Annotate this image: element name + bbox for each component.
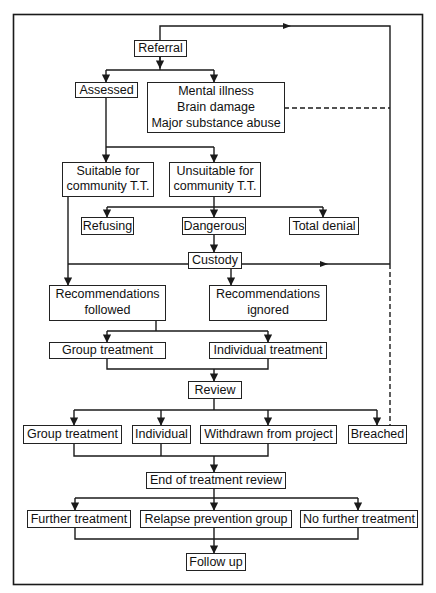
node-label: Total denial [292,219,355,233]
node-label: Follow up [189,555,243,569]
node-recommendations-followed: Recommendations followed [50,286,166,321]
node-relapse-prevention-group: Relapse prevention group [141,511,292,528]
node-suitable: Suitable for community T.T. [63,163,154,197]
node-unsuitable: Unsuitable for community T.T. [170,163,261,197]
node-label: community T.T. [66,179,149,193]
node-follow-up: Follow up [187,554,246,571]
node-no-further-treatment: No further treatment [301,511,418,528]
node-label: Relapse prevention group [144,512,287,526]
node-group-treatment-2: Group treatment [24,426,122,444]
edge-treatments-merge [107,358,268,369]
edge-final-merge [75,527,358,539]
node-label: Referral [138,41,182,55]
node-assessed: Assessed [76,83,138,98]
node-review: Review [189,382,242,399]
node-custody: Custody [189,253,242,269]
node-label: Refusing [83,219,132,233]
node-label: Major substance abuse [151,116,280,130]
node-label: Recommendations [55,287,159,301]
node-label: Custody [192,253,239,267]
node-referral: Referral [135,41,187,57]
node-label: Individual treatment [213,343,323,357]
loop-arrow-icon [283,23,291,29]
node-label: Mental illness [178,84,254,98]
node-label: Review [195,383,237,397]
node-label: End of treatment review [150,473,283,487]
node-label: Brain damage [177,100,255,114]
node-label: followed [85,303,131,317]
nodes: Referral Assessed Mental illness Brain d… [24,41,418,571]
node-label: Group treatment [62,343,154,357]
node-individual: Individual [133,426,191,444]
node-refusing: Refusing [82,218,134,235]
edge-merge-bar [74,444,268,456]
node-label: Recommendations [216,287,320,301]
node-further-treatment: Further treatment [28,511,131,528]
node-breached: Breached [349,426,407,444]
node-label: No further treatment [303,512,415,526]
flowchart-canvas: Referral Assessed Mental illness Brain d… [0,0,436,593]
node-label: Unsuitable for [176,164,253,178]
node-excluded-conditions: Mental illness Brain damage Major substa… [148,83,285,133]
node-dangerous: Dangerous [183,218,246,235]
custody-arrow-icon [320,261,328,267]
node-label: Individual [135,427,188,441]
node-label: community T.T. [173,179,256,193]
node-label: Suitable for [76,164,139,178]
node-withdrawn: Withdrawn from project [201,426,337,444]
node-label: Assessed [79,83,133,97]
node-label: Group treatment [27,427,119,441]
node-label: Dangerous [183,219,244,233]
node-end-of-treatment-review: End of treatment review [147,473,286,489]
node-label: ignored [247,303,289,317]
node-total-denial: Total denial [290,218,359,235]
node-label: Further treatment [31,512,128,526]
node-recommendations-ignored: Recommendations ignored [210,286,327,321]
node-label: Withdrawn from project [204,427,333,441]
node-group-treatment-1: Group treatment [50,343,166,359]
node-individual-treatment: Individual treatment [210,343,327,359]
node-label: Breached [351,427,405,441]
